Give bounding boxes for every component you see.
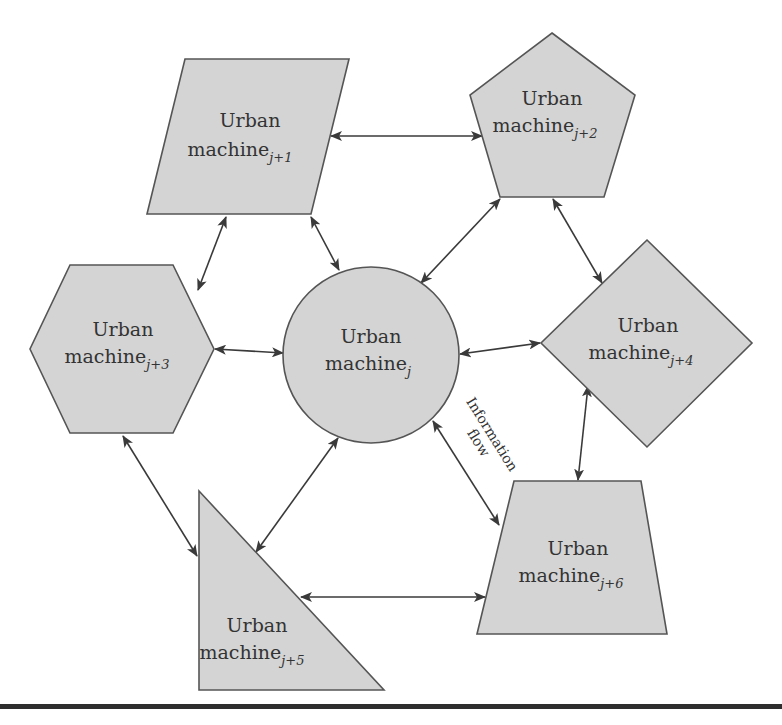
node-urban-machine-j: Urban machinej (283, 267, 459, 443)
node-label-line1: Urban (227, 614, 288, 636)
bottom-rule (0, 704, 782, 709)
node-label-line1: Urban (522, 87, 583, 109)
node-label-line1: Urban (93, 318, 154, 340)
node-label-line1: Urban (220, 109, 281, 131)
urban-machine-network-diagram: Urban machinej+1 Urban machinej+2 Urban … (0, 0, 782, 725)
node-label-line1: Urban (548, 537, 609, 559)
edge-j3-j5 (123, 436, 197, 556)
information-flow-annotation: Information flow (450, 394, 522, 482)
node-urban-machine-j6: Urban machinej+6 (477, 481, 667, 634)
edge-j-j5 (256, 438, 338, 552)
node-urban-machine-j5: Urban machinej+5 (199, 491, 384, 690)
edge-j2-j4 (553, 199, 602, 283)
node-urban-machine-j4: Urban machinej+4 (541, 240, 752, 447)
node-label-line1: Urban (618, 314, 679, 336)
parallelogram-shape (147, 59, 349, 214)
edge-j1-j3 (198, 217, 226, 290)
node-urban-machine-j3: Urban machinej+3 (30, 265, 214, 433)
edge-j-j4 (460, 343, 540, 354)
edge-j1-j (311, 217, 339, 270)
edge-j2-j (421, 199, 500, 283)
edge-j3-j (215, 349, 283, 353)
node-urban-machine-j1: Urban machinej+1 (147, 59, 349, 214)
node-urban-machine-j2: Urban machinej+2 (470, 33, 635, 197)
node-label-line1: Urban (341, 325, 402, 347)
edge-j4-j6 (578, 386, 588, 480)
